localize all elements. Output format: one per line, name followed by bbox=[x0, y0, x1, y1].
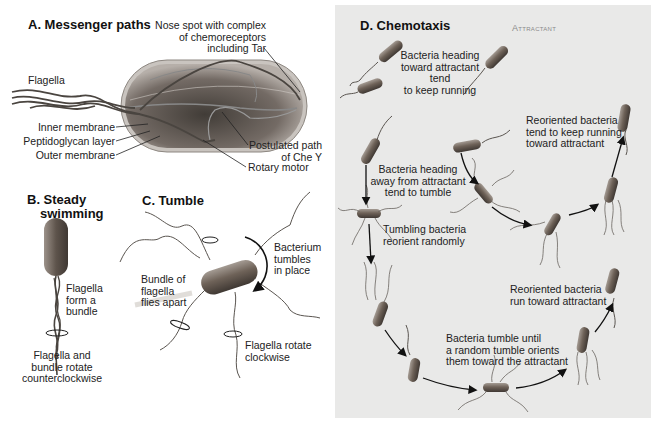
panel-d-title: D. Chemotaxis bbox=[360, 18, 450, 33]
flagella-label: Flagella bbox=[28, 75, 65, 87]
panel-a-title: A. Messenger paths bbox=[28, 17, 151, 32]
tumbles-label: Bacterium tumbles in place bbox=[274, 242, 321, 277]
reoriented-run-label: Reoriented bacteria run toward attractan… bbox=[510, 284, 606, 307]
nose-spot-label: Nose spot with complex of chemoreceptors… bbox=[148, 20, 266, 55]
chey-path-label: Postulated path of Che Y bbox=[240, 140, 322, 163]
tumble-until-label: Bacteria tumble until a random tumble or… bbox=[446, 333, 568, 368]
toward-attractant-label: Bacteria heading toward attractant tend … bbox=[390, 50, 490, 96]
bundle-label: Flagella form a bundle bbox=[66, 283, 103, 318]
clockwise-label: Flagella rotate clockwise bbox=[245, 340, 312, 363]
reoriented-keep-running-label: Reoriented bacteria tend to keep running… bbox=[526, 115, 622, 150]
attractant-label: Attractant bbox=[512, 23, 556, 33]
rotary-motor-label: Rotary motor bbox=[248, 162, 309, 174]
flies-apart-label: Bundle of flagella flies apart bbox=[141, 274, 187, 309]
outer-membrane-label: Outer membrane bbox=[10, 150, 115, 162]
away-from-attractant-label: Bacteria heading away from attractant te… bbox=[368, 164, 468, 199]
peptidoglycan-label: Peptidoglycan layer bbox=[0, 136, 115, 148]
tumbling-reorient-label: Tumbling bacteria reorient randomly bbox=[383, 224, 466, 247]
rotation-arrow-icon bbox=[46, 330, 68, 336]
rotation-arrow-icon bbox=[224, 331, 242, 337]
inner-membrane-label: Inner membrane bbox=[10, 122, 115, 134]
rotation-arrow-icon bbox=[202, 237, 218, 243]
rotation-arrow-icon bbox=[170, 319, 191, 331]
panel-c-title: C. Tumble bbox=[142, 193, 204, 208]
counterclockwise-label: Flagella and bundle rotate counterclockw… bbox=[18, 350, 106, 385]
panel-b-title: B. Steady swimming bbox=[27, 193, 104, 221]
